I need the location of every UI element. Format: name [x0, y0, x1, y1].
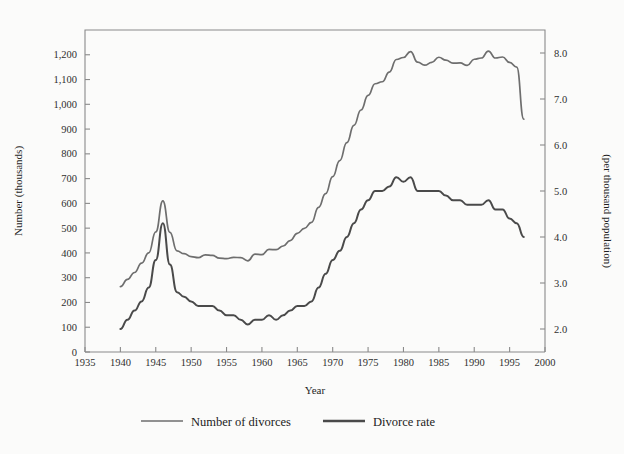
y2-tick-label: 6.0 [554, 140, 567, 151]
y-tick-label: 1,100 [53, 74, 77, 85]
legend-label-1: Divorce rate [373, 415, 436, 429]
x-tick-label: 1955 [216, 357, 237, 368]
figure-container: 1935194019451950195519601965197019751980… [0, 0, 624, 454]
y-tick-label: 1,200 [53, 49, 77, 60]
legend-label-0: Number of divorces [191, 415, 291, 429]
y2-tick-label: 7.0 [554, 94, 567, 105]
x-tick-label: 1970 [322, 357, 343, 368]
plot-background [85, 30, 545, 352]
y-tick-label: 400 [61, 248, 77, 259]
x-tick-label: 1935 [75, 357, 96, 368]
y-tick-label: 100 [61, 322, 77, 333]
x-tick-label: 1995 [499, 357, 520, 368]
x-tick-label: 1945 [145, 357, 166, 368]
x-tick-label: 1960 [251, 357, 272, 368]
y-tick-label: 0 [72, 347, 77, 358]
x-tick-label: 1965 [287, 357, 308, 368]
y2-tick-label: 4.0 [554, 232, 567, 243]
x-axis-title: Year [305, 384, 326, 396]
y-tick-label: 300 [61, 272, 77, 283]
x-tick-label: 1940 [110, 357, 131, 368]
y-tick-label: 600 [61, 198, 77, 209]
x-tick-label: 1975 [358, 357, 379, 368]
x-tick-label: 1980 [393, 357, 414, 368]
y-tick-label: 200 [61, 297, 77, 308]
y-tick-label: 1,000 [53, 99, 77, 110]
y-axis-title: Number (thousands) [12, 146, 25, 236]
y2-axis-title: (per thousand population) [601, 154, 614, 268]
x-tick-label: 1950 [181, 357, 202, 368]
y-tick-label: 900 [61, 124, 77, 135]
y-tick-label: 500 [61, 223, 77, 234]
x-tick-label: 2000 [535, 357, 556, 368]
y2-tick-label: 2.0 [554, 324, 567, 335]
y-tick-label: 800 [61, 148, 77, 159]
divorce-statistics-chart: 1935194019451950195519601965197019751980… [0, 0, 624, 454]
y2-tick-label: 3.0 [554, 278, 567, 289]
y-tick-label: 700 [61, 173, 77, 184]
x-tick-label: 1990 [464, 357, 485, 368]
x-tick-label: 1985 [428, 357, 449, 368]
y2-tick-label: 8.0 [554, 48, 567, 59]
y2-tick-label: 5.0 [554, 186, 567, 197]
